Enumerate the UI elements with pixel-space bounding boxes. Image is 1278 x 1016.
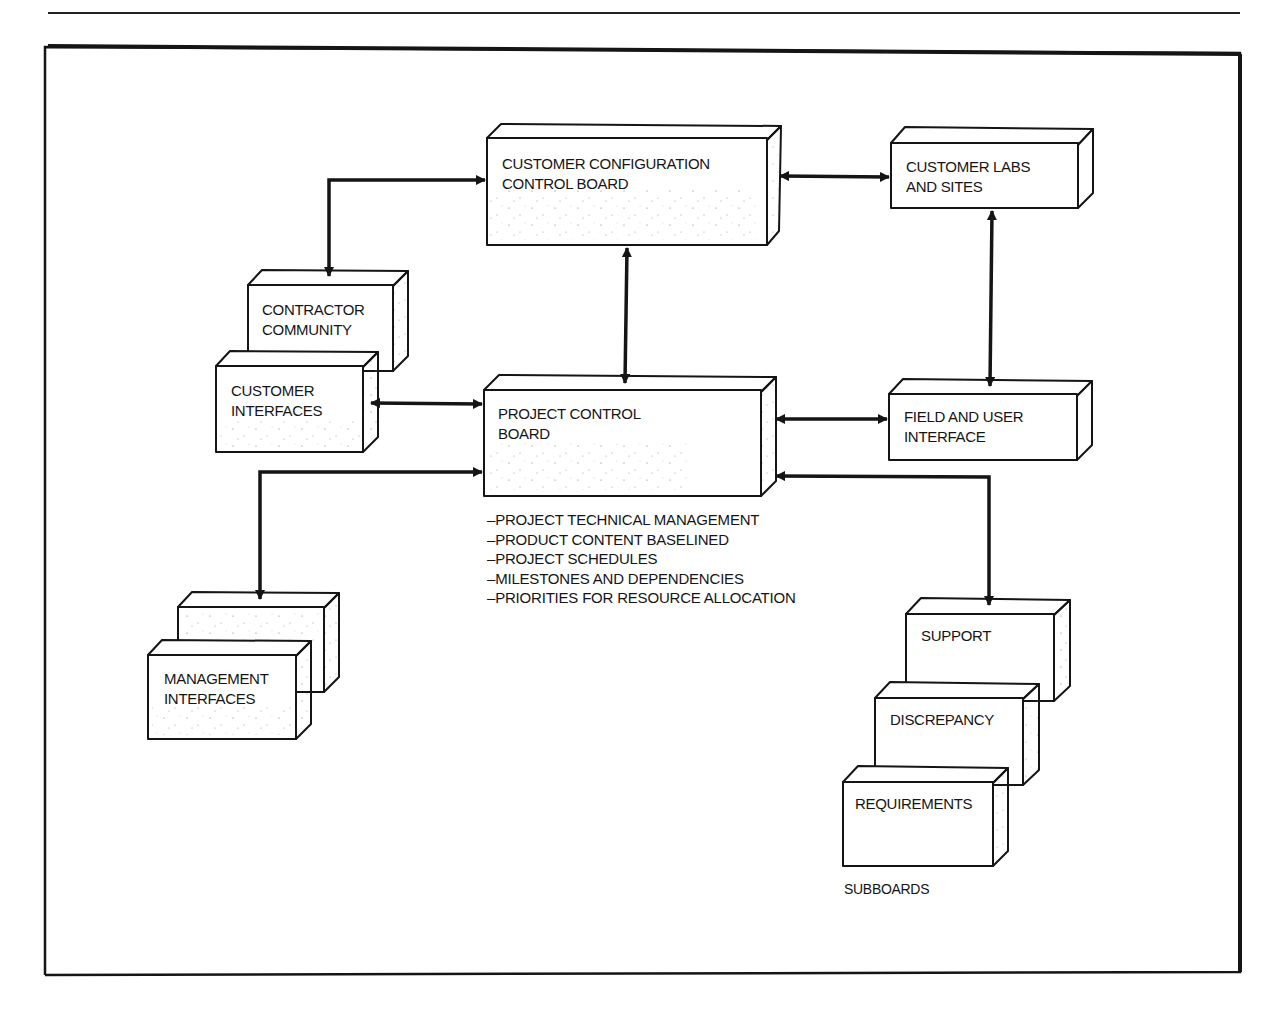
label-support: SUPPORT: [921, 626, 991, 646]
label-field-user-interface: FIELD AND USER INTERFACE: [904, 407, 1023, 447]
arrow-ccb-contractor: [329, 180, 485, 276]
label-project-control-board: PROJECT CONTROL BOARD: [498, 404, 641, 444]
responsibility-item: MILESTONES AND DEPENDENCIES: [487, 569, 796, 589]
label-requirements: REQUIREMENTS: [855, 794, 972, 814]
subboards-caption: SUBBOARDS: [844, 879, 929, 899]
arrow-custint-pcb: [371, 403, 482, 404]
diagram-canvas: [0, 0, 1278, 1016]
responsibility-item: PRIORITIES FOR RESOURCE ALLOCATION: [487, 588, 796, 608]
arrow-ccb-labs: [780, 176, 889, 177]
arrow-labs-field: [990, 211, 992, 386]
label-contractor-community: CONTRACTOR COMMUNITY: [262, 300, 365, 340]
arrow-pcb-support: [776, 476, 989, 605]
label-customer-interfaces: CUSTOMER INTERFACES: [231, 381, 322, 421]
label-customer-config-board: CUSTOMER CONFIGURATION CONTROL BOARD: [502, 154, 710, 194]
responsibility-item: PROJECT SCHEDULES: [487, 549, 796, 569]
arrow-pcb-management: [260, 472, 482, 599]
responsibility-item: PROJECT TECHNICAL MANAGEMENT: [487, 510, 796, 530]
label-management-interfaces: MANAGEMENT INTERFACES: [164, 669, 269, 709]
box-requirements: [843, 766, 1008, 866]
pcb-responsibilities-list: PROJECT TECHNICAL MANAGEMENT PRODUCT CON…: [487, 510, 796, 608]
label-discrepancy: DISCREPANCY: [890, 710, 994, 730]
arrow-ccb-pcb: [625, 248, 627, 383]
label-customer-labs: CUSTOMER LABS AND SITES: [906, 157, 1030, 197]
responsibility-item: PRODUCT CONTENT BASELINED: [487, 530, 796, 550]
